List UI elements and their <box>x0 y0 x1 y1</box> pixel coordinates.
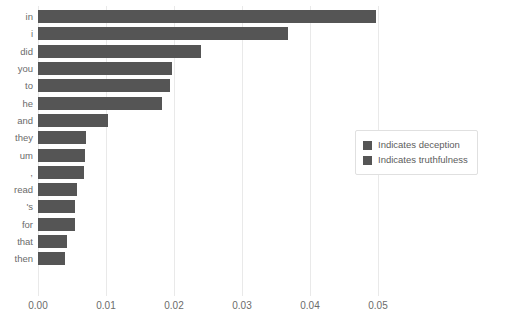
bar-row <box>38 10 376 23</box>
bar <box>38 235 67 248</box>
y-axis-label: that <box>0 235 33 248</box>
bar <box>38 166 84 179</box>
legend-item-truthfulness: Indicates truthfulness <box>363 153 468 167</box>
y-axis-label: to <box>0 79 33 92</box>
y-axis-label: 's <box>0 200 33 213</box>
bar <box>38 252 65 265</box>
bar-row <box>38 252 65 265</box>
bar-row <box>38 131 86 144</box>
bar-row <box>38 235 67 248</box>
y-axis-label: and <box>0 114 33 127</box>
bar-row <box>38 27 288 40</box>
x-axis-label: 0.00 <box>28 300 47 311</box>
bar-series-indicates-deception <box>38 6 378 296</box>
bar <box>38 149 85 162</box>
legend-label-deception: Indicates deception <box>378 139 460 151</box>
plot-area <box>38 6 378 296</box>
y-axis-label: they <box>0 131 33 144</box>
bar-row <box>38 183 77 196</box>
y-axis-label: um <box>0 149 33 162</box>
x-axis-label: 0.02 <box>164 300 183 311</box>
x-axis-tick-labels: 0.000.010.020.030.040.05 <box>38 300 378 320</box>
bar-row <box>38 218 75 231</box>
bar <box>38 10 376 23</box>
y-axis-label: i <box>0 27 33 40</box>
y-axis-label: read <box>0 183 33 196</box>
x-axis-label: 0.05 <box>368 300 387 311</box>
bar <box>38 183 77 196</box>
bar <box>38 131 86 144</box>
bar-row <box>38 45 201 58</box>
chart-legend: Indicates deception Indicates truthfulne… <box>355 130 478 175</box>
bar-row <box>38 79 170 92</box>
bar-row <box>38 166 84 179</box>
y-axis-category-labels: inididyoutoheandtheyum,read'sforthatthen <box>0 6 33 296</box>
y-axis-label: then <box>0 252 33 265</box>
bar-row <box>38 62 172 75</box>
bar <box>38 97 162 110</box>
bar <box>38 62 172 75</box>
y-axis-label: in <box>0 10 33 23</box>
y-axis-label: , <box>0 166 33 179</box>
legend-item-deception: Indicates deception <box>363 138 468 152</box>
bar <box>38 114 108 127</box>
bar-row <box>38 149 85 162</box>
x-axis-label: 0.04 <box>300 300 319 311</box>
bar <box>38 45 201 58</box>
y-axis-label: you <box>0 62 33 75</box>
bar-chart: inididyoutoheandtheyum,read'sforthatthen… <box>0 0 505 327</box>
legend-swatch-icon-deception <box>363 141 372 150</box>
bar <box>38 200 75 213</box>
x-axis-label: 0.01 <box>96 300 115 311</box>
y-axis-label: did <box>0 45 33 58</box>
bar <box>38 218 75 231</box>
bar <box>38 79 170 92</box>
bar-row <box>38 114 108 127</box>
bar <box>38 27 288 40</box>
legend-label-truthfulness: Indicates truthfulness <box>378 154 468 166</box>
y-axis-label: he <box>0 97 33 110</box>
bar-row <box>38 200 75 213</box>
legend-swatch-icon-truthfulness <box>363 156 372 165</box>
bar-row <box>38 97 162 110</box>
x-axis-label: 0.03 <box>232 300 251 311</box>
y-axis-label: for <box>0 218 33 231</box>
